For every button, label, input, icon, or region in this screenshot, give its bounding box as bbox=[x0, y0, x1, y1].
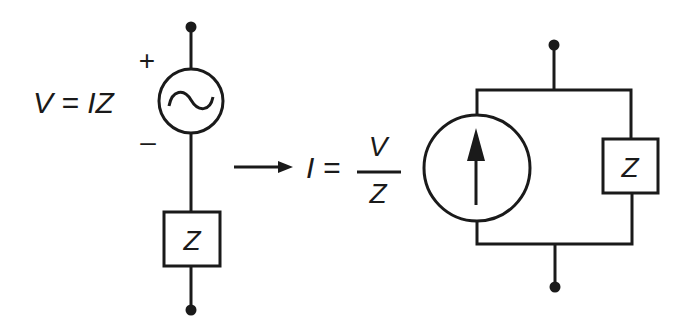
fraction-numerator: V bbox=[369, 131, 390, 162]
transform: I = V Z bbox=[234, 131, 401, 209]
voltage-equation: V = IZ bbox=[33, 86, 116, 119]
bottom-terminal-node bbox=[186, 305, 197, 316]
polarity-plus: + bbox=[139, 45, 155, 76]
impedance-label: Z bbox=[182, 225, 201, 256]
polarity-minus: – bbox=[140, 126, 156, 157]
right-circuit: Z bbox=[424, 40, 658, 293]
bottom-rail-wire bbox=[477, 193, 632, 244]
source-transformation-diagram: Z + – V = IZ I = V Z Z bbox=[0, 0, 689, 327]
up-arrow-icon bbox=[467, 128, 485, 161]
left-circuit: Z + – V = IZ bbox=[33, 22, 223, 316]
ac-voltage-source-icon bbox=[159, 69, 223, 133]
right-arrow-icon bbox=[234, 161, 293, 173]
bottom-terminal-node bbox=[550, 282, 561, 293]
sine-wave-icon bbox=[169, 92, 213, 108]
current-equation-lhs: I = bbox=[306, 151, 340, 184]
fraction-denominator: Z bbox=[368, 178, 387, 209]
top-rail-wire bbox=[477, 90, 631, 139]
impedance-label: Z bbox=[620, 152, 639, 183]
current-source-icon bbox=[424, 115, 530, 221]
